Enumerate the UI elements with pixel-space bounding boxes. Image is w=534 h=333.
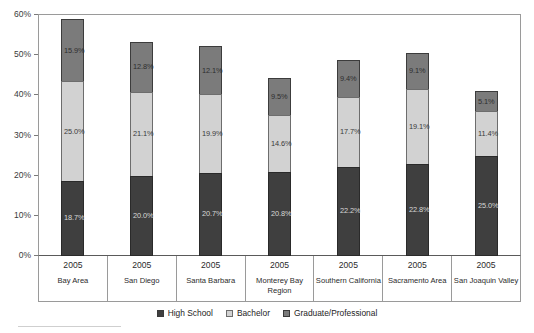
category-name-label: San Diego: [123, 276, 160, 286]
bar-stack: 9.5%14.6%20.8%: [268, 78, 291, 255]
bars-layer: 15.9%25.0%18.7%12.8%21.1%20.0%12.1%19.9%…: [38, 14, 521, 255]
y-axis-tick-label: 20%: [14, 170, 31, 180]
bar-segment: 12.8%: [130, 42, 153, 93]
bar-value-label: 17.7%: [340, 129, 360, 136]
legend-swatch-icon: [283, 310, 290, 317]
bar-stack: 12.1%19.9%20.7%: [199, 46, 222, 255]
bar-segment: 20.7%: [199, 173, 222, 256]
category-cell: 2005San Joaquin Valley: [452, 256, 520, 301]
bar-value-label: 9.1%: [409, 68, 425, 75]
bar-value-label: 22.2%: [340, 208, 360, 215]
category-cell: 2005Monterey Bay Region: [246, 256, 315, 301]
category-cell: 2005Santa Barbara: [177, 256, 246, 301]
legend-label: Bachelor: [237, 308, 270, 318]
bar-stack: 9.1%19.1%22.8%: [406, 53, 429, 255]
y-axis-tick-label: 10%: [14, 210, 31, 220]
bar-value-label: 14.6%: [271, 140, 291, 147]
category-name-label: San Joaquin Valley: [453, 276, 519, 286]
y-axis-tick-label: 50%: [14, 49, 31, 59]
category-name-label: Southern California: [315, 276, 382, 286]
bar-stack: 12.8%21.1%20.0%: [130, 42, 153, 255]
category-year-label: 2005: [339, 260, 358, 270]
bar-segment: 19.9%: [199, 94, 222, 174]
category-year-label: 2005: [270, 260, 289, 270]
legend-swatch-icon: [157, 310, 164, 317]
legend-item: High School: [157, 308, 213, 318]
bar-value-label: 25.0%: [478, 202, 498, 209]
bar-stack: 9.4%17.7%22.2%: [337, 60, 360, 255]
chart-legend: High SchoolBachelorGraduate/Professional: [0, 308, 534, 318]
bar-segment: 21.1%: [130, 92, 153, 177]
bar-segment: 22.2%: [337, 167, 360, 256]
category-cell: 2005San Diego: [108, 256, 177, 301]
y-axis-tick-label: 60%: [14, 9, 31, 19]
bar-segment: 25.0%: [475, 156, 498, 256]
category-year-label: 2005: [408, 260, 427, 270]
bar-stack: 15.9%25.0%18.7%: [61, 19, 84, 255]
bar-segment: 12.1%: [199, 46, 222, 95]
bar-value-label: 12.1%: [202, 67, 222, 74]
bar-stack: 5.1%11.4%25.0%: [475, 91, 498, 255]
category-year-label: 2005: [201, 260, 220, 270]
scan-artifact-line: [18, 326, 121, 327]
category-year-label: 2005: [132, 260, 151, 270]
bar-segment: 9.1%: [406, 53, 429, 90]
legend-item: Graduate/Professional: [283, 308, 377, 318]
category-year-label: 2005: [477, 260, 496, 270]
bar-value-label: 20.8%: [271, 211, 291, 218]
category-name-label: Bay Area: [57, 276, 90, 286]
bar-value-label: 21.1%: [133, 131, 153, 138]
bar-segment: 9.4%: [337, 60, 360, 98]
legend-item: Bachelor: [226, 308, 270, 318]
bar-value-label: 20.0%: [133, 212, 153, 219]
bar-value-label: 9.4%: [340, 75, 356, 82]
legend-swatch-icon: [226, 310, 233, 317]
bar-segment: 18.7%: [61, 181, 84, 256]
bar-segment: 15.9%: [61, 19, 84, 83]
bar-value-label: 15.9%: [64, 47, 84, 54]
bar-segment: 9.5%: [268, 78, 291, 116]
y-axis-tick-label: 0%: [19, 250, 31, 260]
bar-segment: 25.0%: [61, 81, 84, 181]
y-axis-tick-label: 40%: [14, 89, 31, 99]
bar-value-label: 19.9%: [202, 130, 222, 137]
category-cell: 2005Sacramento Area: [383, 256, 452, 301]
category-name-label: Monterey Bay Region: [246, 276, 314, 297]
bar-segment: 19.1%: [406, 89, 429, 166]
category-year-label: 2005: [63, 260, 82, 270]
legend-label: Graduate/Professional: [294, 308, 377, 318]
bar-segment: 17.7%: [337, 97, 360, 168]
category-name-label: Santa Barbara: [185, 276, 236, 286]
category-cell: 2005Southern California: [314, 256, 383, 301]
bar-segment: 20.0%: [130, 176, 153, 256]
bar-value-label: 12.8%: [133, 64, 153, 71]
bar-segment: 11.4%: [475, 111, 498, 157]
bar-value-label: 20.7%: [202, 211, 222, 218]
bar-segment: 22.8%: [406, 164, 429, 256]
bar-value-label: 18.7%: [64, 215, 84, 222]
bar-segment: 20.8%: [268, 172, 291, 256]
bar-value-label: 25.0%: [64, 128, 84, 135]
bar-segment: 14.6%: [268, 115, 291, 174]
bar-value-label: 11.4%: [478, 130, 498, 137]
y-axis-tick-label: 30%: [14, 130, 31, 140]
y-axis: 0%10%20%30%40%50%60%: [0, 0, 38, 256]
category-cell: 2005Bay Area: [39, 256, 108, 301]
bar-segment: 5.1%: [475, 91, 498, 111]
bar-value-label: 5.1%: [478, 98, 494, 105]
legend-label: High School: [168, 308, 213, 318]
category-axis-table: 2005Bay Area2005San Diego2005Santa Barba…: [38, 256, 521, 302]
stacked-bar-chart: 0%10%20%30%40%50%60% 15.9%25.0%18.7%12.8…: [0, 0, 534, 333]
bar-value-label: 19.1%: [409, 123, 429, 130]
bar-value-label: 9.5%: [271, 93, 287, 100]
category-name-label: Sacramento Area: [387, 276, 448, 286]
bar-value-label: 22.8%: [409, 207, 429, 214]
